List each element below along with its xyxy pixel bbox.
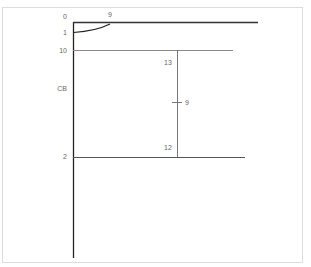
label-2: 2 <box>47 153 67 161</box>
curve-arc <box>74 24 111 33</box>
label-0: 0 <box>47 13 67 21</box>
label-13: 13 <box>164 59 172 67</box>
label-mid-9: 9 <box>185 99 189 107</box>
label-top-9: 9 <box>108 11 112 19</box>
label-10: 10 <box>47 47 67 55</box>
diagram-canvas <box>0 0 311 267</box>
label-12: 12 <box>164 144 172 152</box>
label-1: 1 <box>47 29 67 37</box>
label-cb: CB <box>47 85 67 93</box>
